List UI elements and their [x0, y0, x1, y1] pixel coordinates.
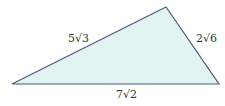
- side-label-right: 2√6: [196, 33, 217, 44]
- triangle-shape: [12, 7, 219, 84]
- side-label-bottom: 7√2: [116, 89, 137, 100]
- side-label-left: 5√3: [68, 33, 89, 44]
- triangle-figure: [0, 0, 225, 106]
